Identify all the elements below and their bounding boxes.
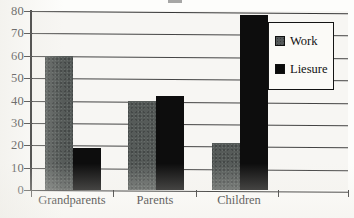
gridline-80 [31,11,348,14]
bar-chart: 01020304050607080 GrandparentsParentsChi… [0,0,354,218]
legend-item-work: Work [275,35,317,48]
gridline-30 [31,123,348,126]
x-axis-label-children: Children [179,194,299,207]
y-tick-60 [24,56,33,57]
legend-item-leisure: Liesure [275,63,327,76]
y-tick-50 [24,78,33,79]
bar-grandparents-work [45,56,73,190]
y-axis-label-60: 60 [0,50,24,63]
y-axis-label-80: 80 [0,5,24,18]
bar-parents-liesure [156,96,184,190]
y-tick-70 [24,33,33,34]
x-tick-4 [348,190,349,197]
y-tick-30 [24,123,33,124]
y-tick-10 [24,168,33,169]
work-swatch-icon [275,36,285,46]
cropped-title-remnant [168,0,182,3]
legend-label-leisure: Liesure [290,63,327,76]
y-tick-80 [24,11,33,12]
leisure-swatch-icon [275,64,285,74]
bar-parents-work [128,101,156,191]
y-axis-label-40: 40 [0,95,24,108]
gridline-40 [31,101,348,104]
legend-label-work: Work [290,35,317,48]
y-axis-label-30: 30 [0,117,24,130]
y-axis-label-10: 10 [0,162,24,175]
y-axis-label-50: 50 [0,72,24,85]
y-axis-label-70: 70 [0,27,24,40]
bar-grandparents-liesure [73,148,101,191]
bar-children-work [212,143,240,190]
y-axis-label-20: 20 [0,139,24,152]
y-tick-40 [24,101,33,102]
bar-children-liesure [240,15,268,190]
y-tick-20 [24,145,33,146]
chart-legend: Work Liesure [268,22,334,90]
